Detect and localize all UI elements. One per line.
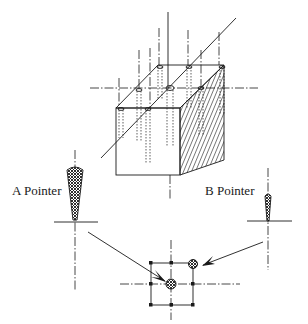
b-leader-line <box>203 242 263 265</box>
hatch-line <box>152 60 202 180</box>
hatch-line <box>228 60 278 180</box>
hatch-line <box>224 60 274 180</box>
hatch-line <box>160 60 210 180</box>
hatch-line <box>132 60 182 180</box>
hatch-line <box>204 60 254 180</box>
hidden-bores <box>119 67 224 164</box>
hatch-line <box>256 60 306 180</box>
center-hole-icon <box>166 279 176 289</box>
hatch-line <box>268 60 308 180</box>
corner-hole-icon <box>189 260 198 269</box>
hatch-line <box>292 60 308 180</box>
hatch-line <box>248 60 298 180</box>
hatch-line <box>276 60 308 180</box>
hatch-line <box>284 60 308 180</box>
hatch-line <box>184 60 234 180</box>
b-pointer-tool-icon <box>265 194 271 221</box>
hatch-line <box>232 60 282 180</box>
hatch-line <box>140 60 190 180</box>
hatch-line <box>124 60 174 180</box>
hatch-line <box>172 60 222 180</box>
leader-arrows <box>88 232 263 282</box>
a-pointer-tool-icon <box>67 167 83 220</box>
hatch-line <box>280 60 308 180</box>
hatch-line <box>156 60 206 180</box>
a-leader-arrowhead <box>151 270 166 282</box>
a-pointer-label: A Pointer <box>12 183 62 198</box>
projection-lines <box>119 12 219 200</box>
block-side-face <box>180 65 224 175</box>
hatch-line <box>188 60 238 180</box>
hatch-line <box>272 60 308 180</box>
b-pointer-label: B Pointer <box>205 183 255 198</box>
hatch-line <box>240 60 290 180</box>
a-leader-line <box>88 232 165 281</box>
hatch-line <box>252 60 302 180</box>
block-front-face <box>116 108 180 175</box>
hatch-line <box>260 60 308 180</box>
hatch-line <box>216 60 266 180</box>
diagram-canvas: A Pointer B Pointer <box>0 0 308 324</box>
hole-pattern-plate <box>120 240 240 320</box>
a-pointer: A Pointer <box>12 150 98 290</box>
hatch-line <box>144 60 194 180</box>
hatch-line <box>164 60 214 180</box>
hatch-line <box>296 60 308 180</box>
block <box>90 12 308 200</box>
hatch-line <box>208 60 258 180</box>
hatch-line <box>236 60 286 180</box>
hatch-line <box>200 60 250 180</box>
b-pointer: B Pointer <box>205 168 292 270</box>
block-side-face-hatching <box>120 60 308 180</box>
hatch-line <box>128 60 178 180</box>
hatch-line <box>244 60 294 180</box>
hatch-line <box>196 60 246 180</box>
hatch-line <box>288 60 308 180</box>
hatch-line <box>220 60 270 180</box>
hatch-line <box>264 60 308 180</box>
hatch-line <box>180 60 230 180</box>
